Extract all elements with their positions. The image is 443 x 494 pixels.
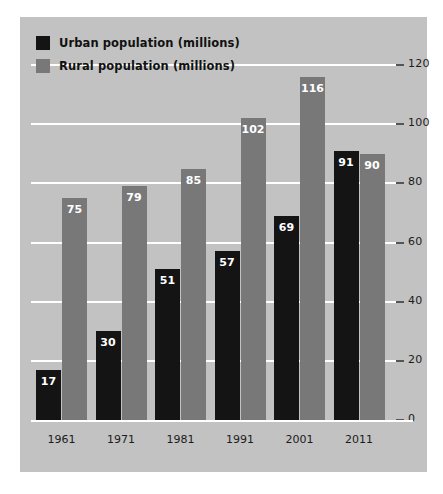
- y-axis-tick: [396, 301, 404, 303]
- bar[interactable]: 102: [241, 118, 266, 420]
- bar-value-label: 51: [155, 274, 180, 287]
- bar-value-label: 79: [122, 191, 147, 204]
- bar-value-label: 90: [360, 159, 385, 172]
- bar-value-label: 102: [241, 123, 266, 136]
- bar-chart: 020406080100120 177530795185571026911691…: [0, 0, 443, 494]
- bar-value-label: 75: [62, 203, 87, 216]
- bar[interactable]: 79: [122, 186, 147, 420]
- legend-label-urban: Urban population (millions): [59, 36, 240, 50]
- y-axis-tick: [396, 182, 404, 184]
- bar-value-label: 57: [215, 256, 240, 269]
- x-axis-label: 1971: [88, 433, 155, 446]
- bar-value-label: 85: [181, 174, 206, 187]
- legend-item-rural: Rural population (millions): [36, 56, 240, 76]
- chart-legend: Urban population (millions) Rural popula…: [36, 33, 240, 79]
- y-axis-label: 0: [408, 412, 415, 425]
- bar[interactable]: 17: [36, 370, 61, 420]
- bar[interactable]: 116: [300, 77, 325, 420]
- x-axis-label: 1981: [147, 433, 214, 446]
- bar[interactable]: 90: [360, 154, 385, 420]
- bar[interactable]: 91: [334, 151, 359, 420]
- y-axis-tick: [396, 64, 404, 66]
- gridline: [31, 123, 396, 125]
- x-axis-label: 1991: [207, 433, 274, 446]
- y-axis-label: 100: [408, 116, 430, 129]
- x-axis-label: 1961: [28, 433, 95, 446]
- legend-swatch-rural-icon: [36, 59, 50, 73]
- y-axis-label: 20: [408, 353, 422, 366]
- x-axis-baseline: [31, 420, 413, 422]
- bar-value-label: 116: [300, 82, 325, 95]
- bar[interactable]: 75: [62, 198, 87, 420]
- y-axis-label: 120: [408, 57, 430, 70]
- y-axis-tick: [396, 360, 404, 362]
- bar[interactable]: 51: [155, 269, 180, 420]
- x-axis-label: 2001: [266, 433, 333, 446]
- bar[interactable]: 57: [215, 251, 240, 420]
- bar[interactable]: 85: [181, 169, 206, 420]
- legend-label-rural: Rural population (millions): [59, 59, 235, 73]
- bar-value-label: 69: [274, 221, 299, 234]
- y-axis-tick: [396, 123, 404, 125]
- bar-value-label: 30: [96, 336, 121, 349]
- y-axis-label: 60: [408, 235, 422, 248]
- bar-value-label: 91: [334, 156, 359, 169]
- y-axis-tick: [396, 242, 404, 244]
- bar-value-label: 17: [36, 375, 61, 388]
- y-axis-label: 80: [408, 175, 422, 188]
- bar[interactable]: 69: [274, 216, 299, 420]
- y-axis-label: 40: [408, 294, 422, 307]
- legend-swatch-urban-icon: [36, 36, 50, 50]
- legend-item-urban: Urban population (millions): [36, 33, 240, 53]
- bar[interactable]: 30: [96, 331, 121, 420]
- x-axis-label: 2011: [326, 433, 393, 446]
